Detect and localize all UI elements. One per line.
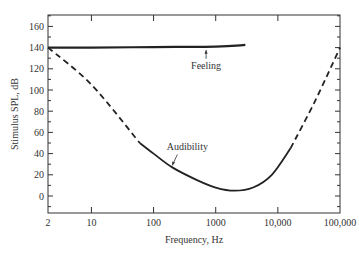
annotations: FeelingAudibility (167, 50, 221, 165)
series-feeling (48, 45, 245, 48)
y-tick-label: 100 (29, 85, 44, 96)
plot-frame (48, 15, 340, 213)
y-axis: 020406080100120140160 (29, 16, 340, 207)
arrowhead-icon (172, 161, 175, 165)
x-tick-label: 10,000 (264, 217, 292, 228)
y-tick-label: 140 (29, 42, 44, 53)
annotation-feeling: Feeling (191, 60, 221, 71)
x-tick-label: 2 (46, 217, 51, 228)
series-audibility-extrapolated-low (48, 48, 140, 143)
y-axis-title: Stimulus SPL, dB (9, 78, 20, 150)
y-tick-label: 120 (29, 63, 44, 74)
x-tick-label: 1000 (206, 217, 226, 228)
x-tick-label: 100,000 (324, 217, 357, 228)
x-tick-label: 10 (86, 217, 96, 228)
arrowhead-icon (205, 50, 208, 54)
y-tick-label: 60 (34, 127, 44, 138)
series-audibility (140, 143, 291, 191)
y-tick-label: 0 (39, 191, 44, 202)
y-tick-label: 80 (34, 106, 44, 117)
y-tick-label: 160 (29, 21, 44, 32)
series-audibility-extrapolated-high (291, 48, 340, 149)
y-tick-label: 40 (34, 148, 44, 159)
annotation-audibility: Audibility (167, 141, 208, 152)
y-tick-label: 20 (34, 169, 44, 180)
x-axis-title: Frequency, Hz (165, 234, 224, 245)
chart: 020406080100120140160 210100100010,00010… (0, 0, 359, 253)
x-tick-label: 100 (146, 217, 161, 228)
